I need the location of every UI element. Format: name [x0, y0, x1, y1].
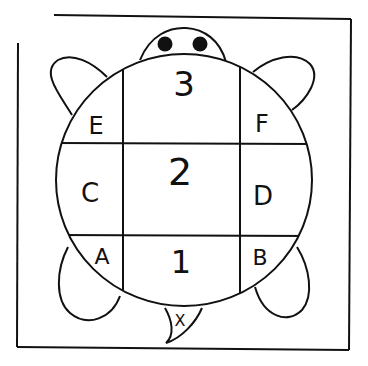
right-eye: [193, 37, 208, 52]
label-top-right: F: [255, 110, 269, 138]
label-middle-right: D: [253, 181, 273, 211]
label-top-left: E: [88, 112, 103, 140]
label-tail: X: [175, 311, 186, 330]
label-bottom-right: B: [252, 245, 267, 270]
left-eye: [158, 37, 173, 52]
label-middle-left: C: [81, 178, 99, 208]
label-bottom-left: A: [94, 244, 109, 269]
label-middle-center: 2: [168, 150, 192, 194]
label-top-center: 3: [173, 64, 195, 104]
label-bottom-center: 1: [171, 243, 191, 281]
turtle-diagram: 3 E F 2 C D A 1 B X: [0, 0, 368, 366]
